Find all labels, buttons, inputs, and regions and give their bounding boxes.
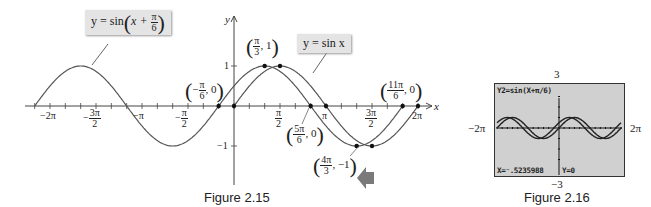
den: 2 <box>365 119 377 129</box>
den: 2 <box>181 119 188 129</box>
den: 3 <box>320 166 332 176</box>
calc-ymax-label: 3 <box>554 68 560 80</box>
x-tick-neg-pi-2: −π2 <box>175 108 188 129</box>
y: −1 <box>338 158 350 170</box>
den: 6 <box>387 91 404 101</box>
point-label-5pi-6: (5π6, 0) <box>286 124 324 145</box>
den: 6 <box>151 23 158 33</box>
calc-ymin-label: −3 <box>551 178 563 190</box>
x-tick-neg-pi: −π <box>133 110 144 121</box>
calc-xmin-label: −2π <box>468 122 485 134</box>
figure-2-15-caption: Figure 2.15 <box>204 190 270 205</box>
x-tick-pi-2: π2 <box>275 108 282 129</box>
calc-trace-y: Y=0 <box>562 166 575 175</box>
left-arrow-icon <box>357 167 374 189</box>
calc-screen-title: Y2=sin(X+π/6) <box>497 86 552 95</box>
den: 6 <box>293 135 305 145</box>
x-axis-label: x <box>434 100 439 112</box>
point-label-neg-pi-6: (−π6, 0) <box>185 80 224 101</box>
pointer-5pi-6 <box>302 108 309 124</box>
point-label-11pi-6: (11π6, 0) <box>380 80 422 101</box>
den: 3 <box>253 47 260 57</box>
y-tick-1: 1 <box>224 60 229 71</box>
calc-xmax-label: 2π <box>630 122 641 134</box>
callout-base: y = sin x <box>297 34 351 53</box>
callout-shifted: y = sin(x + π6) <box>85 10 171 35</box>
point-label-pi-3: (π3, 1) <box>246 36 279 57</box>
x-tick-pi: π <box>322 110 327 121</box>
callout-prefix: y = sin <box>91 14 124 28</box>
y-axis-label: y <box>225 13 230 25</box>
x-tick-neg-2pi: −2π <box>40 110 56 121</box>
den: 2 <box>275 119 282 129</box>
y-tick-neg1: −1 <box>217 140 228 151</box>
calculator-screen <box>494 83 625 177</box>
x-tick-2pi: 2π <box>412 110 422 121</box>
x-tick-neg-3pi-2: −3π2 <box>83 108 101 129</box>
den: 6 <box>199 91 206 101</box>
figure-2-16-caption: Figure 2.16 <box>524 190 590 205</box>
point-label-4pi-3: (4π3, −1) <box>313 155 357 176</box>
x-tick-3pi-2: 3π2 <box>365 108 377 129</box>
calc-trace-x: X=⁻.5235988 <box>497 166 543 175</box>
den: 2 <box>89 119 101 129</box>
callout-inner: x + <box>131 14 147 28</box>
axes <box>25 16 432 185</box>
callout-pointer-shifted <box>92 44 108 65</box>
